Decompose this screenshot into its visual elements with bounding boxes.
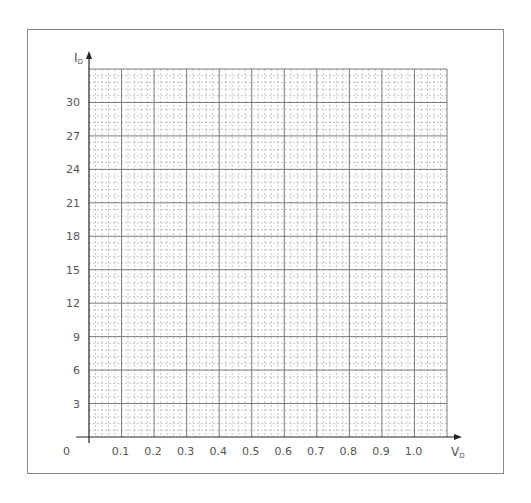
y-tick-label: 12	[66, 297, 80, 310]
y-tick-label: 30	[66, 96, 80, 109]
x-axis-label: VD	[451, 445, 465, 460]
y-axis-arrow-icon	[86, 51, 92, 59]
y-tick-label: 15	[66, 264, 80, 277]
y-tick-label: 9	[73, 331, 80, 344]
x-tick-label: 0.7	[307, 445, 325, 458]
y-axis-label: ID	[74, 51, 83, 66]
y-tick-label: 18	[66, 230, 80, 243]
axes	[76, 51, 462, 443]
x-tick-label: 0.6	[275, 445, 293, 458]
x-tick-label: 0.9	[372, 445, 390, 458]
y-tick-label: 27	[66, 130, 80, 143]
y-tick-labels: 36912151821242730	[66, 96, 80, 410]
graph-paper-chart: 0.10.20.30.40.50.60.70.80.91.0 369121518…	[0, 0, 531, 503]
x-axis-label-subscript: D	[459, 452, 464, 460]
x-axis-arrow-icon	[454, 434, 462, 440]
x-tick-label: 0.2	[144, 445, 162, 458]
x-tick-label: 1.0	[405, 445, 423, 458]
y-axis-label-subscript: D	[78, 58, 83, 66]
y-tick-label: 3	[73, 398, 80, 411]
x-tick-label: 0.1	[112, 445, 130, 458]
x-tick-label: 0.5	[242, 445, 260, 458]
x-tick-label: 0.4	[209, 445, 227, 458]
x-tick-label: 0.8	[340, 445, 358, 458]
major-grid	[89, 69, 447, 437]
y-tick-label: 6	[73, 364, 80, 377]
y-tick-label: 24	[66, 163, 80, 176]
y-tick-label: 21	[66, 197, 80, 210]
x-tick-labels: 0.10.20.30.40.50.60.70.80.91.0	[112, 445, 422, 458]
origin-label: 0	[63, 445, 70, 458]
minor-grid	[89, 69, 447, 437]
x-tick-label: 0.3	[177, 445, 195, 458]
